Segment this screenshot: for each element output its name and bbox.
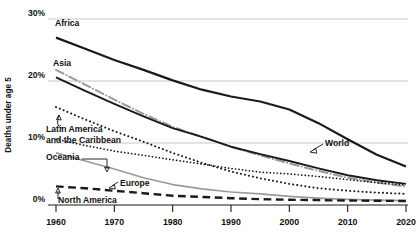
africa-label: Africa bbox=[55, 18, 80, 28]
y-tick-label-10: 10% bbox=[28, 132, 45, 142]
series-annotations-group: AfricaAsiaLatin Americaand the Caribbean… bbox=[46, 18, 349, 205]
latin-america-label-line1: Latin America bbox=[46, 124, 103, 134]
oceania-label: Oceania bbox=[46, 152, 80, 162]
asia-label: Asia bbox=[53, 58, 71, 68]
north-america-label: North America bbox=[58, 195, 117, 205]
latin-america-label-line2: and the Caribbean bbox=[46, 135, 121, 145]
latin-america-arrowhead bbox=[56, 115, 61, 120]
x-axis-ticks-group bbox=[56, 205, 406, 212]
y-tick-label-0: 0% bbox=[33, 194, 46, 204]
y-axis-tick-labels-group: 0%10%20%30% bbox=[28, 8, 45, 204]
x-axis-tick-labels-group: 1960197019801990200020102020 bbox=[46, 217, 416, 227]
y-tick-label-20: 20% bbox=[28, 70, 45, 80]
x-tick-label-1960: 1960 bbox=[46, 217, 66, 227]
x-tick-label-1990: 1990 bbox=[221, 217, 241, 227]
x-tick-label-1980: 1980 bbox=[163, 217, 183, 227]
y-axis-title: Deaths under age 5 bbox=[4, 77, 13, 153]
chart-container: 0%10%20%30% 1960197019801990200020102020… bbox=[0, 0, 419, 234]
series-paths-group bbox=[56, 38, 406, 201]
x-tick-label-1970: 1970 bbox=[105, 217, 125, 227]
line-chart-svg: 0%10%20%30% 1960197019801990200020102020… bbox=[0, 0, 419, 234]
x-tick-label-2000: 2000 bbox=[280, 217, 300, 227]
x-tick-label-2020: 2020 bbox=[396, 217, 416, 227]
europe-arrowhead bbox=[109, 185, 115, 189]
europe-label: Europe bbox=[120, 178, 150, 188]
world-label: World bbox=[325, 138, 349, 148]
y-tick-label-30: 30% bbox=[28, 8, 45, 18]
x-tick-label-2010: 2010 bbox=[338, 217, 358, 227]
world-arrowhead bbox=[310, 148, 317, 153]
